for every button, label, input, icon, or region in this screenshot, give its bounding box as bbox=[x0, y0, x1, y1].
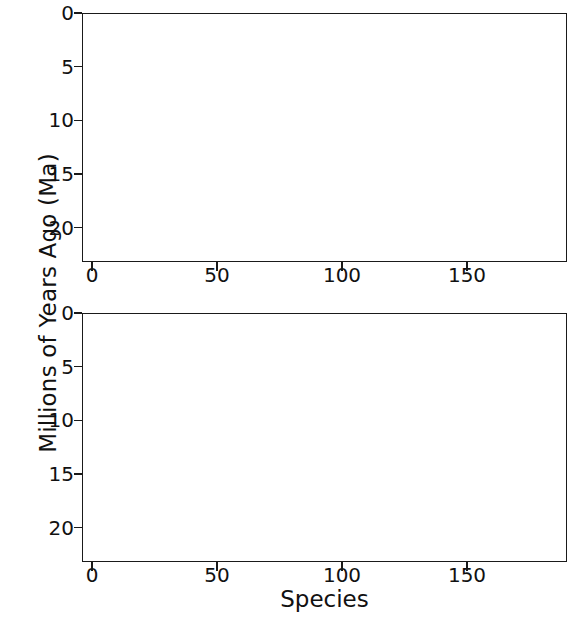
bottom-panel-frame bbox=[82, 313, 567, 562]
y-tick-mark bbox=[74, 120, 82, 122]
x-tick-mark bbox=[216, 562, 218, 571]
figure-root: Millions of Years Ago (Ma) 05101520 0501… bbox=[0, 0, 585, 618]
y-tick-mark bbox=[74, 173, 82, 175]
y-tick-mark bbox=[74, 66, 82, 68]
top-panel-frame bbox=[82, 13, 567, 262]
y-tick-mark bbox=[74, 527, 82, 529]
y-tick-label: 20 bbox=[34, 218, 74, 238]
y-tick-mark bbox=[74, 312, 82, 314]
y-tick-label: 5 bbox=[34, 357, 74, 377]
x-tick-mark bbox=[466, 262, 468, 271]
y-tick-mark bbox=[74, 420, 82, 422]
x-tick-mark bbox=[216, 262, 218, 271]
y-tick-label: 0 bbox=[34, 3, 74, 23]
y-tick-label: 0 bbox=[34, 303, 74, 323]
x-tick-mark bbox=[341, 262, 343, 271]
y-tick-label: 15 bbox=[34, 464, 74, 484]
y-tick-label: 15 bbox=[34, 164, 74, 184]
x-tick-mark bbox=[466, 562, 468, 571]
y-tick-mark bbox=[74, 473, 82, 475]
y-tick-mark bbox=[74, 12, 82, 14]
x-tick-mark bbox=[341, 562, 343, 571]
y-tick-label: 10 bbox=[34, 110, 74, 130]
x-tick-mark bbox=[91, 262, 93, 271]
top-panel: 05101520 050100150 bbox=[82, 13, 567, 262]
x-tick-mark bbox=[91, 562, 93, 571]
x-axis-title: Species bbox=[82, 586, 567, 612]
y-tick-label: 5 bbox=[34, 57, 74, 77]
bottom-panel: 05101520 050100150 bbox=[82, 313, 567, 562]
y-tick-label: 10 bbox=[34, 410, 74, 430]
y-tick-mark bbox=[74, 227, 82, 229]
y-tick-label: 20 bbox=[34, 518, 74, 538]
y-tick-mark bbox=[74, 366, 82, 368]
